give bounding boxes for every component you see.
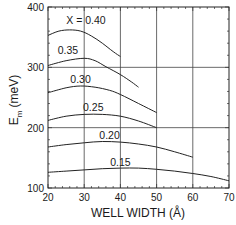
series-line: [48, 114, 157, 128]
series-label: 0.25: [83, 101, 104, 113]
y-axis-label-main: E: [7, 117, 21, 125]
y-axis-label-unit: (meV): [7, 75, 21, 108]
y-axis-label-sub: m: [15, 110, 24, 117]
axis-ticks: [48, 7, 229, 188]
svg-text:Em(meV): Em(meV): [7, 75, 24, 125]
y-tick-label: 400: [27, 2, 44, 13]
x-axis-label: WELL WIDTH (Å): [91, 205, 185, 220]
series-line: [48, 58, 139, 87]
x-tick-label: 30: [79, 192, 91, 203]
series-label: 0.20: [99, 129, 120, 141]
tick-labels: 203040506070100200300400: [27, 2, 235, 203]
series-label: 0.35: [58, 44, 79, 56]
y-axis-label: Em(meV): [7, 75, 24, 125]
x-tick-label: 60: [187, 192, 199, 203]
series-label: X = 0.40: [66, 14, 106, 26]
gridlines: [48, 7, 229, 188]
y-tick-label: 300: [27, 62, 44, 73]
series-labels: X = 0.400.350.300.250.200.15: [58, 14, 131, 168]
y-tick-label: 200: [27, 123, 44, 134]
series-label: 0.15: [110, 156, 131, 168]
x-tick-label: 40: [115, 192, 127, 203]
chart: X = 0.400.350.300.250.200.15 20304050607…: [0, 0, 236, 225]
plot-frame: [48, 7, 229, 188]
x-tick-label: 20: [42, 192, 54, 203]
series-line: [48, 168, 229, 181]
y-tick-label: 100: [27, 183, 44, 194]
x-tick-label: 70: [223, 192, 235, 203]
series-label: 0.30: [70, 73, 91, 85]
x-tick-label: 50: [151, 192, 163, 203]
